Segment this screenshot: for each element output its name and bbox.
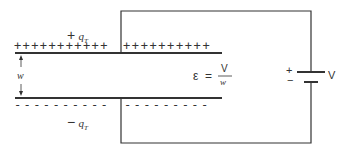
top-charge-sign: + [67,27,75,43]
field-equation-equals: = [205,70,212,82]
top-charge-label: + qT [67,28,88,45]
battery-voltage-label: V [328,70,335,81]
field-equation-numerator: V [221,64,228,74]
separation-label: w [17,71,24,81]
bottom-charge-sign: − [67,114,75,130]
bottom-charge-subscript: T [84,124,88,132]
field-equation-lhs: ε [193,70,198,82]
top-plate-charges-left: +++++++++++ [14,40,109,52]
arrow-down-icon [19,91,23,96]
top-plate-charges-right: ++++++++++ [123,40,211,52]
bottom-plate-charges-right: --------- [124,99,211,111]
bottom-plate-charges-left: ---------- [14,99,110,111]
field-equation-denominator: w [220,78,226,87]
capacitor-circuit-diagram [0,0,346,151]
arrow-up-icon [19,55,23,60]
battery-minus-sign: − [287,75,293,86]
top-charge-subscript: T [84,37,88,45]
bottom-wire [121,82,311,143]
bottom-charge-label: − qT [67,115,88,132]
